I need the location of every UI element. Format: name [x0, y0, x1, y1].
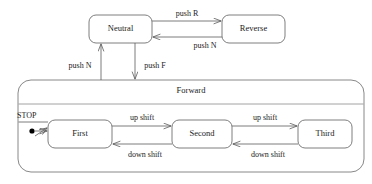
transition-forward-to-neutral[interactable]: push N [69, 44, 101, 80]
state-first[interactable]: First [48, 120, 112, 148]
state-reverse-label: Reverse [240, 23, 268, 33]
state-first-label: First [72, 128, 88, 138]
transition-second-to-third-label: up shift [253, 113, 278, 122]
transition-first-to-second-label: up shift [130, 113, 155, 122]
transition-second-to-first-label: down shift [128, 150, 163, 159]
transition-neutral-to-forward-label: push F [144, 61, 166, 70]
transition-reverse-to-neutral-label: push N [194, 41, 217, 50]
state-reverse[interactable]: Reverse [222, 15, 285, 43]
transition-neutral-to-reverse-label: push R [176, 9, 199, 18]
initial-state-dot [29, 128, 34, 133]
state-neutral[interactable]: Neutral [89, 15, 152, 43]
state-neutral-label: Neutral [108, 23, 134, 33]
state-second[interactable]: Second [172, 120, 232, 148]
transition-third-to-second-label: down shift [251, 150, 286, 159]
state-third[interactable]: Third [298, 120, 352, 148]
stop-label: STOP [17, 111, 37, 120]
composite-state-forward-label: Forward [177, 85, 207, 95]
transition-reverse-to-neutral[interactable]: push N [153, 37, 222, 50]
diagram-canvas: Forward Neutral Reverse push R push N pu… [0, 0, 372, 184]
transition-neutral-to-reverse[interactable]: push R [152, 9, 221, 21]
state-second-label: Second [189, 128, 215, 138]
transition-neutral-to-forward[interactable]: push F [135, 43, 166, 79]
transition-forward-to-neutral-label: push N [69, 61, 92, 70]
state-third-label: Third [316, 128, 336, 138]
state-machine-diagram: Forward Neutral Reverse push R push N pu… [0, 0, 372, 184]
